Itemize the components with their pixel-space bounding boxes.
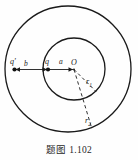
distance-a-arrow-right: [69, 67, 74, 71]
charge-q-dot: [46, 67, 50, 71]
radius-r1-dashed-line: [74, 70, 96, 92]
label-radius-r1-subscript: 1: [89, 82, 92, 88]
label-center-o: O: [71, 59, 77, 67]
label-radius-r1: r1: [86, 78, 92, 88]
label-distance-b: b: [24, 60, 28, 68]
label-distance-a: a: [59, 58, 63, 66]
label-charge-q-prime: q': [10, 58, 16, 66]
label-charge-q: q: [45, 58, 49, 66]
figure-container: q' b q a O r1 r2 题图 1.102: [0, 0, 138, 160]
label-radius-r2-subscript: 2: [88, 121, 91, 127]
charge-q-prime-dot: [12, 67, 16, 71]
outer-circle: [5, 6, 131, 132]
label-radius-r2: r2: [85, 117, 91, 127]
figure-drawing: [0, 0, 138, 140]
figure-caption: 题图 1.102: [0, 142, 138, 156]
